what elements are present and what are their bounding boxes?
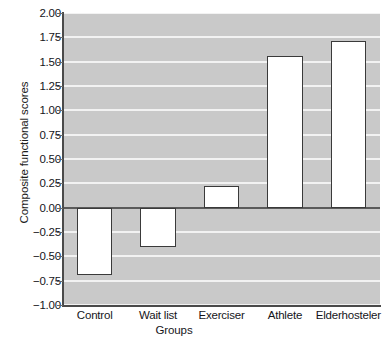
y-axis-tick-mark bbox=[57, 256, 63, 257]
y-axis-tick-label: 0.25 bbox=[20, 177, 61, 189]
x-axis-tick-label: Control bbox=[77, 309, 113, 321]
y-axis-tick-mark bbox=[57, 208, 63, 209]
gridline bbox=[63, 280, 380, 282]
bar-control bbox=[77, 208, 113, 275]
x-axis-title: Groups bbox=[63, 324, 285, 336]
y-axis-tick-mark bbox=[57, 110, 63, 111]
y-axis-tick-labels: 2.001.751.501.251.000.750.500.250.00−0.2… bbox=[20, 0, 61, 345]
bar-athlete bbox=[267, 56, 303, 208]
y-axis-tick-mark bbox=[57, 305, 63, 306]
bar-wait-list bbox=[140, 208, 176, 247]
plot-area bbox=[63, 13, 380, 305]
y-axis-tick-mark bbox=[57, 159, 63, 160]
gridline bbox=[63, 36, 380, 38]
x-axis-tick-label: Elderhosteler bbox=[316, 309, 381, 321]
y-axis-tick-label: 1.00 bbox=[20, 104, 61, 116]
y-axis-tick-mark bbox=[57, 281, 63, 282]
y-axis-tick-label: −1.00 bbox=[20, 299, 61, 311]
x-axis-line bbox=[62, 305, 381, 307]
y-axis-tick-mark bbox=[57, 86, 63, 87]
y-axis-tick-label: 2.00 bbox=[20, 7, 61, 19]
x-axis-tick-label: Athlete bbox=[268, 309, 302, 321]
y-axis-tick-label: 1.50 bbox=[20, 56, 61, 68]
y-axis-tick-mark bbox=[57, 13, 63, 14]
bar-elderhosteler bbox=[331, 41, 367, 207]
y-axis-tick-label: −0.50 bbox=[20, 250, 61, 262]
y-axis-tick-mark bbox=[57, 37, 63, 38]
y-axis-tick-mark bbox=[57, 183, 63, 184]
y-axis-tick-label: 1.25 bbox=[20, 80, 61, 92]
y-axis-tick-label: −0.25 bbox=[20, 226, 61, 238]
x-axis-tick-label: Exerciser bbox=[198, 309, 244, 321]
y-axis-tick-mark bbox=[57, 62, 63, 63]
y-axis-tick-label: 0.00 bbox=[20, 202, 61, 214]
y-axis-tick-label: 0.50 bbox=[20, 153, 61, 165]
x-axis-tick-label: Wait list bbox=[139, 309, 177, 321]
y-axis-tick-label: 1.75 bbox=[20, 31, 61, 43]
bar-chart: Composite functional scores 2.001.751.50… bbox=[0, 0, 390, 345]
y-axis-tick-label: −0.75 bbox=[20, 275, 61, 287]
y-axis-tick-mark bbox=[57, 135, 63, 136]
gridline bbox=[63, 13, 380, 14]
bar-exerciser bbox=[204, 186, 240, 207]
y-axis-tick-mark bbox=[57, 232, 63, 233]
y-axis-tick-label: 0.75 bbox=[20, 129, 61, 141]
